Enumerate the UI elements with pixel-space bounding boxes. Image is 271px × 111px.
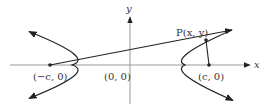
hyperbola-diagram: x y (−c, 0) (0, 0) (c, 0) P(x, y) <box>0 0 271 111</box>
origin-label: (0, 0) <box>104 71 131 82</box>
y-axis-label: y <box>125 3 132 14</box>
point-p-label: P(x, y) <box>176 27 208 38</box>
focal-line-right <box>206 40 209 65</box>
right-focus-label: (c, 0) <box>198 71 224 82</box>
left-focus-point <box>48 63 52 67</box>
right-lower-arrow-icon <box>228 98 233 101</box>
right-focus-point <box>207 63 211 67</box>
point-p <box>204 38 208 42</box>
x-axis-label: x <box>254 59 260 70</box>
left-focus-label: (−c, 0) <box>33 71 68 82</box>
